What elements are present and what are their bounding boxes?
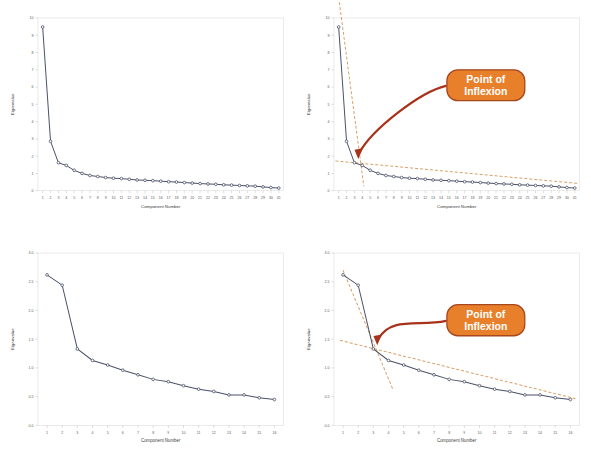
data-point <box>360 164 363 167</box>
data-point <box>89 174 92 177</box>
x-tick-label: 12 <box>127 196 131 200</box>
data-point <box>387 359 390 362</box>
x-tick-label: 16 <box>272 430 276 434</box>
x-tick-label: 3 <box>57 196 59 200</box>
data-point <box>137 373 140 376</box>
x-tick-label: 8 <box>97 196 99 200</box>
chart-top-right: 0123456789101234567891011121314151617181… <box>296 0 591 235</box>
data-point <box>486 182 489 185</box>
x-tick-label: 1 <box>337 196 339 200</box>
x-tick-label: 4 <box>387 430 389 434</box>
x-tick-label: 1 <box>342 430 344 434</box>
data-point <box>76 347 79 350</box>
data-point <box>341 273 344 276</box>
x-tick-label: 10 <box>407 196 411 200</box>
x-tick-label: 4 <box>92 430 94 434</box>
y-tick-label: 2.0 <box>28 308 33 312</box>
data-point <box>167 180 170 183</box>
x-axis-title: Component Number <box>436 438 476 443</box>
x-tick-label: 18 <box>174 196 178 200</box>
x-tick-label: 28 <box>253 196 257 200</box>
data-point <box>356 283 359 286</box>
data-point <box>49 140 52 143</box>
data-point <box>199 182 202 185</box>
point-of-inflexion-callout: Point ofInflexion <box>446 304 524 335</box>
point-of-inflexion-callout: Point ofInflexion <box>446 70 524 101</box>
data-point <box>569 398 572 401</box>
x-tick-label: 8 <box>392 196 394 200</box>
x-tick-label: 11 <box>197 430 201 434</box>
x-tick-label: 3 <box>76 430 78 434</box>
x-tick-label: 10 <box>112 196 116 200</box>
data-point <box>526 184 529 187</box>
x-tick-label: 22 <box>206 196 210 200</box>
x-tick-label: 11 <box>492 430 496 434</box>
data-point <box>372 347 375 350</box>
data-point <box>518 183 521 186</box>
data-point <box>277 187 280 190</box>
data-point <box>400 176 403 179</box>
data-point <box>455 180 458 183</box>
y-axis-title: Eigenvalue <box>305 93 310 115</box>
x-tick-label: 29 <box>557 196 561 200</box>
data-point <box>212 390 215 393</box>
x-tick-label: 20 <box>486 196 490 200</box>
y-tick-label: 0.5 <box>28 395 33 399</box>
x-tick-label: 25 <box>525 196 529 200</box>
x-tick-label: 20 <box>190 196 194 200</box>
data-point <box>432 373 435 376</box>
y-tick-label: 8 <box>327 51 329 55</box>
data-point <box>416 177 419 180</box>
data-point <box>417 368 420 371</box>
data-point <box>565 186 568 189</box>
x-tick-label: 15 <box>151 196 155 200</box>
data-point <box>73 169 76 172</box>
x-tick-label: 30 <box>564 196 568 200</box>
data-point <box>502 183 505 186</box>
data-point <box>439 179 442 182</box>
callout-line-2: Inflexion <box>464 320 507 332</box>
y-tick-label: 3.0 <box>324 251 329 255</box>
data-point <box>353 161 356 164</box>
data-point <box>61 283 64 286</box>
x-tick-label: 17 <box>462 196 466 200</box>
x-tick-label: 6 <box>81 196 83 200</box>
data-point <box>238 184 241 187</box>
data-point <box>337 26 340 29</box>
callout-line-1: Point of <box>466 74 505 85</box>
x-tick-label: 1 <box>46 430 48 434</box>
data-point <box>228 393 231 396</box>
x-tick-label: 6 <box>377 196 379 200</box>
panel-bottom-right: 0.00.51.01.52.02.53.01234567891011121314… <box>296 235 591 469</box>
data-point <box>243 393 246 396</box>
data-point <box>270 186 273 189</box>
data-point <box>222 183 225 186</box>
x-tick-label: 3 <box>372 430 374 434</box>
data-point <box>120 177 123 180</box>
data-point <box>402 363 405 366</box>
x-tick-label: 14 <box>438 196 442 200</box>
y-tick-label: 1.5 <box>28 337 33 341</box>
x-tick-label: 31 <box>277 196 281 200</box>
panel-bottom-left: 0.00.51.01.52.02.53.01234567891011121314… <box>0 235 296 469</box>
data-point <box>557 186 560 189</box>
data-point <box>144 179 147 182</box>
data-point <box>392 175 395 178</box>
data-point <box>230 184 233 187</box>
x-tick-label: 23 <box>509 196 513 200</box>
y-tick-label: 2.5 <box>324 280 329 284</box>
y-axis-title: Eigenvalue <box>305 327 310 349</box>
x-tick-label: 16 <box>159 196 163 200</box>
x-tick-label: 22 <box>501 196 505 200</box>
x-tick-label: 7 <box>137 430 139 434</box>
x-tick-label: 5 <box>73 196 75 200</box>
data-point <box>254 185 257 188</box>
x-tick-label: 13 <box>227 430 231 434</box>
data-point <box>65 164 68 167</box>
x-tick-label: 2 <box>50 196 52 200</box>
y-tick-label: 10 <box>325 16 329 20</box>
x-tick-label: 23 <box>214 196 218 200</box>
data-point <box>447 179 450 182</box>
x-tick-label: 9 <box>167 430 169 434</box>
x-tick-label: 26 <box>533 196 537 200</box>
